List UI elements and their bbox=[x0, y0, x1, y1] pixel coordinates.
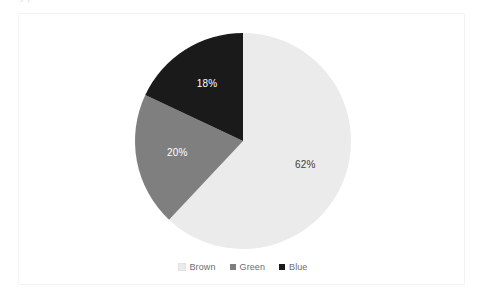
legend-label-green: Green bbox=[240, 262, 266, 272]
legend-label-brown: Brown bbox=[190, 262, 216, 272]
legend-swatch-green-icon bbox=[230, 264, 236, 270]
legend-item-green[interactable]: Green bbox=[230, 262, 266, 272]
legend-swatch-blue-icon bbox=[279, 264, 285, 270]
legend-swatch-brown-icon bbox=[178, 263, 186, 271]
data-label-blue: 18% bbox=[197, 78, 218, 89]
legend-item-blue[interactable]: Blue bbox=[279, 262, 307, 272]
chart-frame[interactable]: 62% 20% 18% Brown Green Blue bbox=[18, 13, 465, 285]
clipped-top-caption: y p bbox=[20, 0, 320, 4]
pie-plot-area[interactable]: 62% 20% 18% Brown Green Blue bbox=[19, 14, 466, 286]
data-label-green: 20% bbox=[167, 147, 188, 158]
legend-label-blue: Blue bbox=[289, 262, 307, 272]
data-label-brown: 62% bbox=[295, 159, 316, 170]
pie-chart-svg[interactable]: 62% 20% 18% bbox=[19, 14, 466, 286]
pie-slices bbox=[135, 33, 351, 249]
legend-item-brown[interactable]: Brown bbox=[178, 262, 216, 272]
chart-legend[interactable]: Brown Green Blue bbox=[19, 262, 466, 272]
